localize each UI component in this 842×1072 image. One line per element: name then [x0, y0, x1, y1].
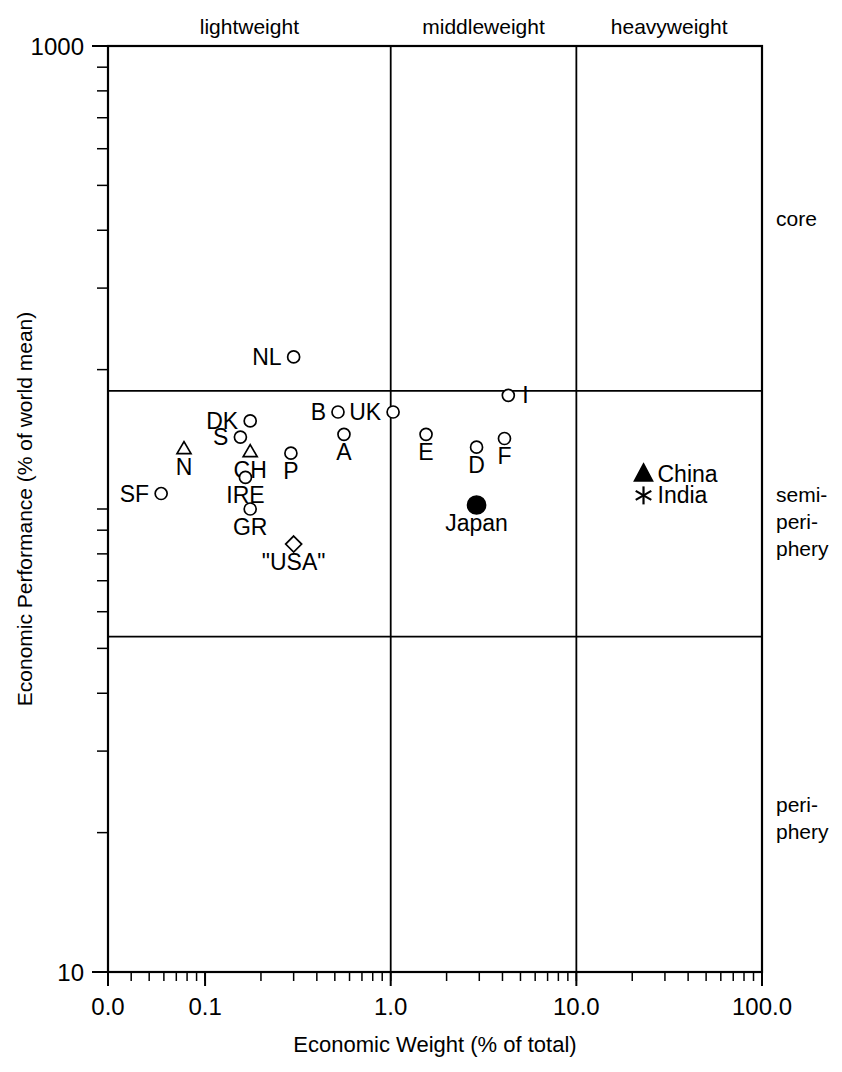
datapoint-India[interactable]	[636, 486, 652, 504]
datapoint-label-GR: GR	[233, 514, 268, 540]
y-axis-title: Economic Performance (% of world mean)	[13, 312, 36, 706]
datapoint-UK[interactable]	[387, 406, 399, 418]
band-label-lightweight: lightweight	[200, 15, 299, 38]
zone-label-peri-1: peri-	[776, 793, 818, 816]
datapoint-N[interactable]	[177, 442, 191, 454]
datapoint-label-Japan: Japan	[445, 510, 508, 536]
x-tick-label-0: 0.0	[91, 993, 124, 1020]
datapoint-label-D: D	[468, 452, 485, 478]
y-tick-label-top: 1000	[31, 33, 84, 60]
datapoint-S[interactable]	[234, 431, 246, 443]
x-tick-label-1: 0.1	[188, 993, 221, 1020]
band-label-heavyweight: heavyweight	[611, 15, 728, 38]
scatter-plot: 0.00.11.010.0100.0Economic Weight (% of …	[0, 0, 842, 1072]
datapoint-B[interactable]	[332, 406, 344, 418]
zone-label-core: core	[776, 207, 817, 230]
datapoint-label-UK: UK	[349, 399, 382, 425]
datapoint-DK[interactable]	[244, 415, 256, 427]
datapoint-label-NL: NL	[252, 344, 282, 370]
datapoint-label-B: B	[311, 399, 326, 425]
zone-label-semi-1: semi-	[776, 483, 827, 506]
datapoint-label-USA: "USA"	[262, 549, 326, 575]
datapoint-label-F: F	[497, 443, 511, 469]
zone-label-semi-3: phery	[776, 537, 829, 560]
band-label-middleweight: middleweight	[422, 15, 545, 38]
x-tick-label-2: 1.0	[374, 993, 407, 1020]
datapoint-CH[interactable]	[243, 445, 257, 457]
datapoint-China[interactable]	[635, 464, 653, 481]
x-tick-label-3: 10.0	[553, 993, 600, 1020]
datapoint-SF[interactable]	[155, 488, 167, 500]
datapoint-label-S: S	[213, 424, 228, 450]
x-tick-label-4: 100.0	[732, 993, 792, 1020]
datapoint-NL[interactable]	[288, 351, 300, 363]
chart-canvas: 0.00.11.010.0100.0Economic Weight (% of …	[0, 0, 842, 1072]
datapoint-label-N: N	[176, 454, 193, 480]
zone-label-semi-2: peri-	[776, 510, 818, 533]
datapoint-label-E: E	[418, 439, 433, 465]
datapoint-I[interactable]	[502, 389, 514, 401]
datapoint-label-A: A	[336, 439, 352, 465]
y-tick-label-bottom: 10	[57, 959, 84, 986]
datapoint-label-I: I	[522, 382, 528, 408]
zone-label-peri-2: phery	[776, 820, 829, 843]
x-axis-title: Economic Weight (% of total)	[293, 1032, 576, 1057]
datapoint-label-SF: SF	[120, 481, 149, 507]
datapoint-label-P: P	[283, 458, 298, 484]
datapoint-label-India: India	[658, 482, 708, 508]
plot-frame	[108, 46, 762, 972]
